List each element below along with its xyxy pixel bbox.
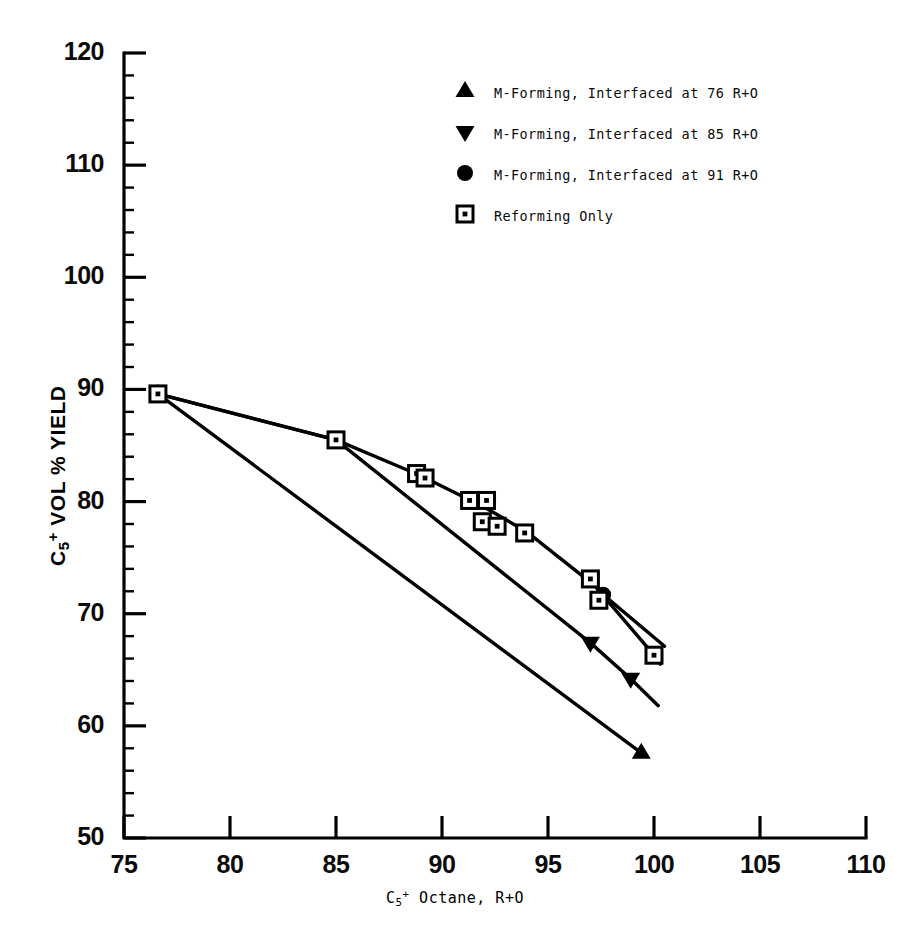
series-markers (148, 384, 662, 759)
y-axis-title: C5+ VOL % YIELD (44, 356, 72, 596)
x-axis-title-sub: 5 (396, 896, 403, 909)
square-dot-marker (462, 492, 478, 508)
legend-item-label: M-Forming, Interfaced at 85 R+O (478, 126, 758, 142)
legend-item-label: M-Forming, Interfaced at 91 R+O (478, 167, 758, 183)
x-axis-title: C5+ Octane, R+O (0, 888, 910, 909)
square-dot-icon (452, 203, 478, 229)
y-axis-title-rest: VOL % YIELD (46, 386, 69, 532)
square-dot-marker (517, 525, 533, 541)
triangle-up-marker (632, 743, 651, 759)
series-line-3 (158, 394, 660, 664)
series-line-0 (158, 394, 641, 753)
y-axis-title-sub: 5 (55, 541, 72, 550)
square-dot-marker (457, 206, 473, 222)
square-dot-marker (150, 386, 166, 402)
series-line-2 (603, 595, 664, 647)
square-dot-marker (417, 470, 433, 486)
square-dot-marker (479, 492, 495, 508)
square-dot-marker (582, 571, 598, 587)
square-dot-marker (328, 432, 344, 448)
chart-figure: 50607080901001101207580859095100105110 C… (0, 0, 910, 936)
square-dot-marker (591, 592, 607, 608)
x-tick-label: 95 (503, 850, 593, 879)
legend-item: M-Forming, Interfaced at 85 R+O (452, 113, 852, 154)
x-tick-label: 90 (397, 850, 487, 879)
x-axis-major-ticks (124, 816, 866, 838)
x-tick-label: 75 (79, 850, 169, 879)
legend-item-label: M-Forming, Interfaced at 76 R+O (478, 85, 758, 101)
x-tick-label: 85 (291, 850, 381, 879)
y-tick-label: 50 (28, 822, 104, 851)
x-tick-label: 110 (821, 850, 910, 879)
legend-item: M-Forming, Interfaced at 76 R+O (452, 72, 852, 113)
x-tick-label: 80 (185, 850, 275, 879)
legend-item: Reforming Only (452, 195, 852, 236)
legend-item-label: Reforming Only (478, 208, 613, 224)
triangle-up-marker (456, 81, 475, 97)
x-tick-label: 100 (609, 850, 699, 879)
y-tick-label: 120 (28, 37, 104, 66)
square-dot-marker (646, 647, 662, 663)
y-axis-title-c: C (46, 550, 69, 566)
y-axis-major-ticks (124, 53, 146, 838)
x-axis-title-rest: Octane, R+O (410, 889, 524, 907)
triangle-up-icon (452, 80, 478, 106)
x-axis-title-sup: + (403, 888, 410, 901)
y-tick-label: 100 (28, 261, 104, 290)
chart-legend: M-Forming, Interfaced at 76 R+OM-Forming… (452, 72, 852, 236)
circle-marker (457, 165, 473, 181)
y-tick-label: 110 (28, 149, 104, 178)
y-tick-label: 60 (28, 710, 104, 739)
y-axis-title-sup: + (44, 532, 61, 541)
series-line-1 (158, 394, 658, 706)
triangle-down-marker (456, 126, 475, 142)
circle-icon (452, 162, 478, 188)
x-axis-title-c: C (386, 889, 396, 907)
legend-item: M-Forming, Interfaced at 91 R+O (452, 154, 852, 195)
y-tick-label: 70 (28, 598, 104, 627)
triangle-down-icon (452, 121, 478, 147)
square-dot-marker (489, 518, 505, 534)
x-tick-label: 105 (715, 850, 805, 879)
